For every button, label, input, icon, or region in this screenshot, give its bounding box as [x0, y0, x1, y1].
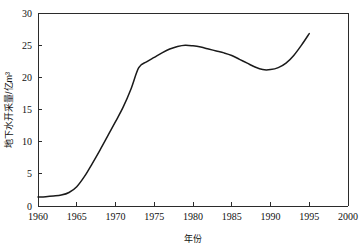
y-tick-label-25: 25 — [22, 40, 32, 51]
x-tick-label-1970: 1970 — [106, 211, 126, 222]
x-tick-label-1990: 1990 — [261, 211, 281, 222]
x-tick-label-2000: 2000 — [338, 211, 358, 222]
chart-container: 196019651970197519801985199019952000 051… — [0, 0, 363, 248]
y-tick-label-10: 10 — [22, 136, 32, 147]
groundwater-extraction-line-chart: 196019651970197519801985199019952000 051… — [0, 0, 363, 248]
y-tick-label-20: 20 — [22, 72, 32, 83]
y-tick-label-0: 0 — [27, 201, 32, 212]
y-tick-label-30: 30 — [22, 8, 32, 19]
y-axis-title: 地下水开采量/亿m³ — [3, 72, 14, 148]
x-tick-label-1995: 1995 — [299, 211, 319, 222]
x-tick-label-1985: 1985 — [222, 211, 242, 222]
x-tick-label-1980: 1980 — [183, 211, 203, 222]
x-axis-title: 年份 — [184, 233, 202, 244]
x-tick-label-1975: 1975 — [144, 211, 164, 222]
y-tick-label-5: 5 — [27, 168, 32, 179]
x-tick-label-1960: 1960 — [28, 211, 48, 222]
y-tick-label-15: 15 — [22, 104, 32, 115]
x-axis-tick-labels: 196019651970197519801985199019952000 — [28, 211, 358, 222]
x-tick-label-1965: 1965 — [67, 211, 87, 222]
